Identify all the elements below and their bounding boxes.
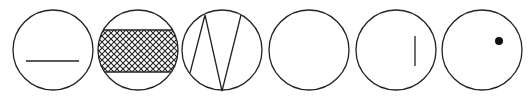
- circle-2-crosshatched-band: [96, 10, 180, 90]
- circle-6-dot: [442, 10, 522, 90]
- circle-4-empty: [269, 10, 349, 90]
- circle-1-horizontal-line: [13, 10, 93, 90]
- circle-5-vertical-line: [356, 10, 436, 90]
- circles-diagram: [0, 0, 532, 104]
- circle-3-zigzag: [182, 10, 262, 91]
